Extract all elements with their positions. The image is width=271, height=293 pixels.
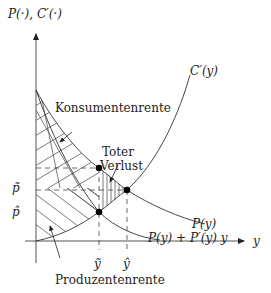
demand-label: P(y) xyxy=(191,217,217,231)
diagram-canvas: P(·), C′(·) y C′(y) P(y) P(y) + P′(y) y … xyxy=(0,0,271,293)
p-hat-label: p̂ xyxy=(12,205,20,219)
y-axis-label: P(·), C′(·) xyxy=(7,7,62,21)
producer-surplus-label: Produzentenrente xyxy=(55,273,165,287)
consumer-surplus-hatch xyxy=(20,40,120,220)
mc-mr-intersection-point xyxy=(96,209,103,216)
deadweight-loss-label-1: Toter xyxy=(102,145,134,159)
marginal-cost-label: C′(y) xyxy=(190,64,218,78)
y-hat-label: ŷ xyxy=(122,257,130,271)
x-axis-label: y xyxy=(252,234,260,248)
y-tilde-label: ỹ xyxy=(93,257,101,271)
marginal-revenue-label: P(y) + P′(y) y xyxy=(147,231,228,245)
deadweight-loss-label-2: Verlust xyxy=(99,159,143,173)
efficient-point xyxy=(124,187,131,194)
p-tilde-label: p̃ xyxy=(12,181,20,195)
producer-surplus-pointer xyxy=(50,226,60,258)
consumer-surplus-label: Konsumentenrente xyxy=(55,101,171,115)
